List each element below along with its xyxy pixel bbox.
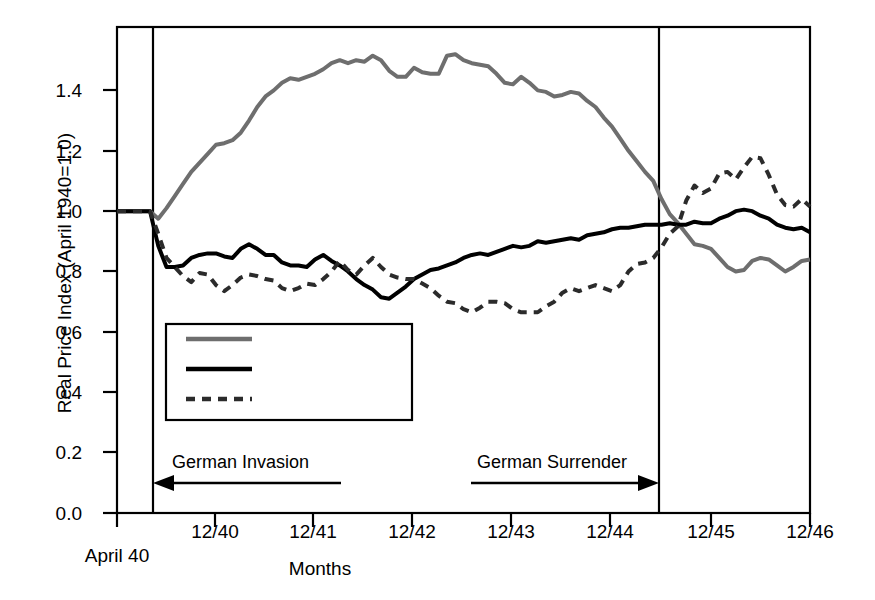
series-line-allied-6 [117, 210, 810, 299]
annotation-german-invasion-arrow [153, 475, 341, 491]
axes-frame [117, 27, 810, 513]
series-line-neutral-2 [117, 157, 810, 312]
data-series-group [117, 54, 810, 312]
x-tick-marks [117, 513, 810, 527]
chart-figure: Real Price Index (April 1940=1.0) 1.4 1.… [0, 0, 875, 600]
legend-box [166, 324, 412, 420]
annotation-german-surrender-arrow [471, 475, 659, 491]
series-line-occupied-10 [117, 54, 810, 271]
chart-plot-area [0, 0, 875, 600]
y-tick-marks [103, 90, 117, 513]
